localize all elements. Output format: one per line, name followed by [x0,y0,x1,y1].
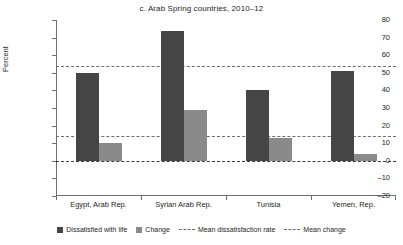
bar [354,154,377,161]
legend-label: Dissatisfied with life [66,226,127,233]
chart-legend: Dissatisfied with lifeChangeMean dissati… [0,226,403,233]
y-tick-label: 70 [366,34,390,42]
y-tick-mark [52,143,56,144]
y-axis-line [56,20,57,196]
legend-swatch-light-icon [136,227,142,233]
zero-line [56,161,396,162]
y-tick-label: 30 [366,104,390,112]
y-tick-label: 10 [366,139,390,147]
y-tick-label: –10 [366,174,390,182]
legend-dashed-line-icon [284,229,300,230]
y-tick-label: 80 [366,16,390,24]
y-tick-label: 50 [366,69,390,77]
y-axis-label: Percent [1,46,10,72]
y-tick-label: 20 [366,122,390,130]
plot-area: 80706050403020100–10–20 [56,20,396,196]
y-tick-mark [52,20,56,21]
legend-label: Mean dissatisfaction rate [198,226,275,233]
x-axis-category-label: Tunisia [226,200,311,209]
bar [99,143,122,161]
chart-figure: c. Arab Spring countries, 2010–12 Percen… [0,0,403,245]
x-axis-category-label: Syrian Arab Rep. [141,200,226,209]
bar [269,138,292,161]
y-tick-label: 40 [366,86,390,94]
y-tick-label: 60 [366,51,390,59]
bar [246,90,269,160]
chart-title: c. Arab Spring countries, 2010–12 [0,4,403,13]
bar [161,31,184,161]
y-tick-mark [52,126,56,127]
y-tick-mark [52,90,56,91]
bar [331,71,354,161]
y-tick-mark [52,108,56,109]
bar [76,73,99,161]
y-tick-label: –20 [366,192,390,200]
x-axis-category-label: Egypt, Arab Rep. [56,200,141,209]
y-tick-mark [52,55,56,56]
bar [184,110,207,161]
x-axis-labels: Egypt, Arab Rep.Syrian Arab Rep.TunisiaY… [56,200,396,214]
legend-item[interactable]: Change [136,226,170,233]
legend-dashed-line-icon [179,229,195,230]
y-tick-mark [52,38,56,39]
legend-label: Change [145,226,170,233]
y-tick-mark [52,178,56,179]
legend-item[interactable]: Mean change [284,226,345,233]
legend-swatch-dark-icon [57,227,63,233]
legend-label: Mean change [303,226,345,233]
legend-item[interactable]: Mean dissatisfaction rate [179,226,275,233]
y-tick-mark [52,73,56,74]
reference-line [56,66,396,67]
x-axis-category-label: Yemen, Rep. [311,200,396,209]
legend-item[interactable]: Dissatisfied with life [57,226,127,233]
